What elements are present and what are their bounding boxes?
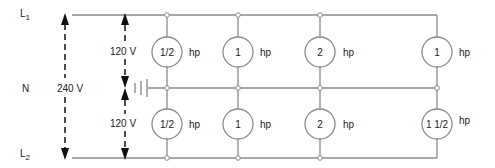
svg-text:hp: hp [260, 47, 272, 58]
motor-lower-2: 1 hp [223, 109, 272, 139]
wiring-diagram: L1 N L2 240 V [0, 0, 495, 168]
svg-text:1 1/2: 1 1/2 [426, 119, 449, 130]
branch-wires [167, 15, 437, 158]
svg-text:hp: hp [459, 115, 471, 126]
svg-text:hp: hp [459, 47, 471, 58]
line-label-l2: L2 [20, 148, 31, 162]
ground-icon [135, 79, 147, 97]
motor-upper-2: 1 hp [223, 37, 272, 67]
voltage-label-240v: 240 V [57, 83, 83, 94]
svg-text:1: 1 [235, 47, 241, 58]
svg-text:hp: hp [189, 47, 201, 58]
svg-text:1/2: 1/2 [160, 47, 174, 58]
motor-upper-4: 1 hp [422, 37, 471, 67]
svg-text:1: 1 [235, 119, 241, 130]
svg-text:2: 2 [317, 119, 323, 130]
svg-text:1/2: 1/2 [160, 119, 174, 130]
svg-text:hp: hp [260, 119, 272, 130]
motor-upper-3: 2 hp [305, 37, 355, 67]
svg-text:hp: hp [343, 119, 355, 130]
junction-nodes [165, 13, 440, 161]
svg-text:hp: hp [189, 119, 201, 130]
motor-lower-4: 1 1/2 hp [422, 109, 471, 139]
motor-upper-1: 1/2 hp [152, 37, 201, 67]
svg-text:1: 1 [434, 47, 440, 58]
motor-lower-3: 2 hp [305, 109, 355, 139]
motor-lower-1: 1/2 hp [152, 109, 201, 139]
svg-text:hp: hp [343, 47, 355, 58]
line-label-l1: L1 [20, 8, 31, 22]
line-label-neutral: N [22, 83, 29, 94]
voltage-label-120v-upper: 120 V [110, 46, 136, 57]
svg-text:2: 2 [317, 47, 323, 58]
voltage-label-120v-lower: 120 V [110, 118, 136, 129]
